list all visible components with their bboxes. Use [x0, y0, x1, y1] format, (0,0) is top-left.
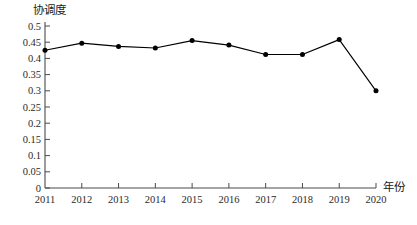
y-axis-tick-label: 0.25: [23, 102, 41, 113]
x-axis-tick-labels: 2011201220132014201520162017201820192020: [35, 194, 387, 205]
x-axis-tick-group: [82, 183, 376, 188]
data-point-marker: [226, 43, 231, 48]
y-axis-tick-label: 0.2: [28, 118, 41, 129]
x-axis-tick-label: 2018: [292, 194, 313, 205]
series-line-coordination-degree: [45, 40, 376, 91]
data-point-marker: [153, 46, 158, 51]
x-axis-tick-label: 2014: [145, 194, 167, 205]
y-axis-tick-label: 0.5: [28, 21, 41, 32]
coordination-degree-line-chart: 协调度 年份 00.050.10.150.20.250.30.350.40.45…: [0, 0, 417, 225]
y-axis-tick-label: 0: [36, 183, 41, 194]
x-axis-tick-label: 2020: [366, 194, 387, 205]
y-axis-tick-label: 0.4: [28, 53, 42, 64]
data-point-marker: [116, 44, 121, 49]
x-axis-tick-label: 2013: [108, 194, 129, 205]
data-point-marker: [79, 41, 84, 46]
data-point-marker: [374, 88, 379, 93]
y-axis-tick-label: 0.35: [23, 69, 41, 80]
x-axis-tick-label: 2016: [218, 194, 239, 205]
x-axis-tick-label: 2012: [71, 194, 92, 205]
y-axis-tick-label: 0.45: [23, 37, 41, 48]
y-axis-tick-label: 0.3: [28, 85, 41, 96]
x-axis-title: 年份: [383, 180, 406, 193]
y-axis-tick-label: 0.15: [23, 134, 41, 145]
data-point-marker: [43, 48, 48, 53]
data-point-marker: [190, 38, 195, 43]
y-axis-title: 协调度: [33, 3, 67, 16]
chart-figure: 协调度 年份 00.050.10.150.20.250.30.350.40.45…: [0, 0, 417, 225]
data-point-marker: [263, 52, 268, 57]
series-marker-group: [43, 37, 379, 93]
data-point-marker: [300, 52, 305, 57]
y-axis-tick-label: 0.05: [23, 166, 41, 177]
x-axis-tick-label: 2017: [255, 194, 276, 205]
data-point-marker: [337, 37, 342, 42]
y-axis-tick-label: 0.1: [28, 150, 41, 161]
x-axis-tick-label: 2019: [329, 194, 350, 205]
y-axis-tick-labels: 00.050.10.150.20.250.30.350.40.450.5: [23, 21, 42, 194]
x-axis-tick-label: 2011: [35, 194, 56, 205]
x-axis-tick-label: 2015: [182, 194, 203, 205]
